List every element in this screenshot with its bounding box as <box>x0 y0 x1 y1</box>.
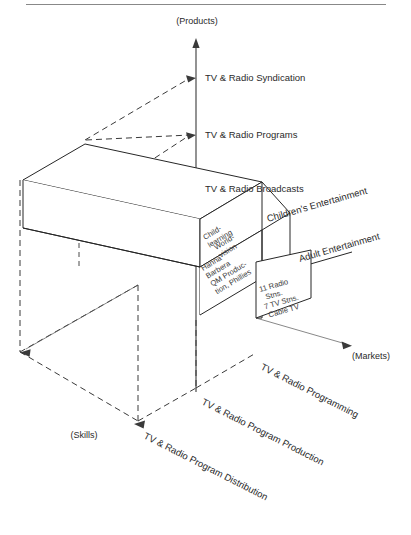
dashed-ground-bottom-right <box>196 353 256 388</box>
diagram-root: (Products) TV & Radio Syndication TV & R… <box>0 0 411 535</box>
markets-axis-line <box>256 318 346 344</box>
dashed-ground-left-front <box>20 352 138 421</box>
markets-axis-arrowhead <box>342 342 352 350</box>
tick-label-tv-radio-programming: TV & Radio Programming <box>259 361 360 420</box>
lower-diagonal-arrowheads <box>134 388 204 429</box>
tick-label-tv-radio-program-distribution: TV & Radio Program Distribution <box>142 430 270 502</box>
skills-axis-group <box>20 285 149 425</box>
markets-axis-end-label: (Markets) <box>352 351 390 361</box>
skills-axis-end-label: (Skills) <box>71 430 98 440</box>
products-axis-arrowhead <box>192 38 199 48</box>
skills-axis-arrowhead <box>20 349 31 357</box>
tick-label-tv-radio-program-production: TV & Radio Program Production <box>200 396 326 467</box>
tick-label-tv-radio-programs: TV & Radio Programs <box>205 129 298 140</box>
dashed-to-syndication <box>85 78 190 140</box>
tick-label-tv-radio-broadcasts: TV & Radio Broadcasts <box>205 183 304 194</box>
tick-label-tv-radio-syndication: TV & Radio Syndication <box>205 72 305 83</box>
programs-tick-arrowhead <box>186 132 196 139</box>
dashed-ground-bottom <box>138 388 196 421</box>
products-axis-end-label: (Products) <box>176 16 218 26</box>
isometric-cube-diagram: (Products) TV & Radio Syndication TV & R… <box>0 0 411 535</box>
dashed-to-programs-upper <box>86 135 190 140</box>
syndication-tick-arrowhead <box>186 75 196 82</box>
